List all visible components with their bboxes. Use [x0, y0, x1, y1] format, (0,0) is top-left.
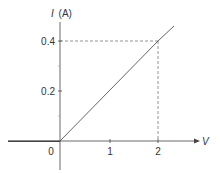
- y-axis-label-symbol: I: [51, 8, 54, 19]
- y-axis-label: I (A): [51, 8, 72, 19]
- x-tick-label: 2: [155, 146, 161, 157]
- y-tick-label: 0.2: [41, 86, 55, 97]
- x-tick-label: 0: [48, 146, 54, 157]
- x-axis-label: V: [202, 136, 210, 147]
- x-tick-label: 1: [107, 146, 113, 157]
- y-axis-label-unit: (A): [59, 8, 72, 19]
- iv-chart: 0.4 0.2 0 1 2 V I (A): [0, 0, 220, 173]
- x-axis-arrow-icon: [194, 139, 200, 144]
- y-tick-label: 0.4: [41, 36, 55, 47]
- data-line: [8, 26, 174, 141]
